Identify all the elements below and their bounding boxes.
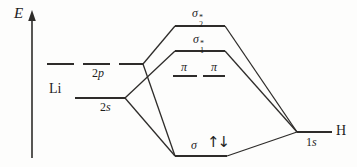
sigma-label: σ — [191, 139, 197, 151]
li-atom-label: Li — [49, 82, 61, 96]
pi-label-left: π — [181, 61, 187, 73]
li-2s-label: 2s — [100, 101, 111, 113]
line-sigma-1s — [227, 132, 297, 156]
line-2s-sigma — [125, 98, 175, 156]
h-atom-label: H — [336, 124, 346, 138]
pi-label-right: π — [211, 61, 217, 73]
h-1s-label: 1s — [306, 136, 317, 148]
li-2s-letter: s — [106, 100, 111, 114]
line-2p-sigma2star — [143, 26, 175, 64]
spin-up-arrow-icon: ↑ — [207, 135, 218, 150]
sigma1-base: σ — [193, 32, 199, 46]
li-2p-letter: p — [98, 66, 104, 80]
sigma1-subscript: 1 — [200, 48, 204, 55]
electron-pair-arrows: ↑↓ — [207, 135, 228, 150]
sigma2-subscript: 2 — [199, 22, 203, 29]
li-2p-label: 2p — [92, 67, 104, 79]
line-2s-sigma1star — [125, 51, 175, 98]
sigma2-base: σ — [192, 6, 198, 20]
line-sigma2star-1s — [225, 26, 297, 132]
sigma2-star-label: σ*2 — [192, 7, 203, 29]
sigma1-star-label: σ*1 — [193, 33, 204, 55]
spin-down-arrow-icon: ↓ — [218, 135, 229, 150]
line-2p-sigma — [143, 64, 175, 156]
line-sigma1star-1s — [225, 51, 297, 132]
axis-arrowhead-icon — [28, 10, 36, 21]
h-1s-letter: s — [312, 135, 317, 149]
mo-energy-diagram: E Li 2p 2s σ*2 σ*1 π π σ ↑↓ 1s H — [0, 0, 357, 167]
energy-axis-label: E — [14, 6, 23, 21]
